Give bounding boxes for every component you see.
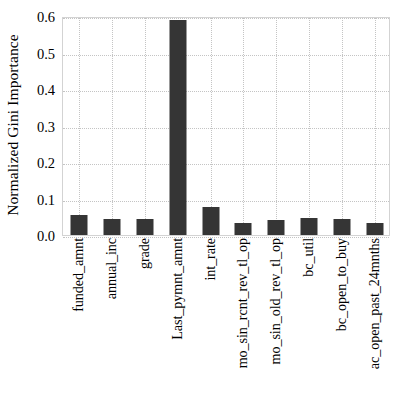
x-tick-label: Last_pymnt_amnt [168,238,185,340]
x-tick-label: mo_sin_rcnt_rev_tl_op [234,238,251,368]
x-tick-label: grade [136,238,153,269]
bar-funded_amnt [71,215,88,235]
bar-grade [137,219,154,235]
x-tick-label: ac_open_past_24mnths [365,238,382,369]
x-gridline [375,18,376,235]
x-tick-label: funded_amnt [70,238,87,312]
x-gridline [145,18,146,235]
bar-mo_sin_old_rev_tl_op [268,220,285,235]
x-gridline [309,18,310,235]
bar-bc_open_to_buy [333,219,350,235]
gini-importance-bar-chart: Normalized Gini Importance 0.00.10.20.30… [0,0,413,410]
x-tick-label: mo_sin_old_rev_tl_op [267,238,284,364]
x-tick-label: annual_inc [103,238,120,299]
x-gridline [276,18,277,235]
bar-bc_util [301,218,318,235]
x-tick-label: bc_open_to_buy [332,238,349,331]
x-gridline [342,18,343,235]
y-axis-title-container: Normalized Gini Importance [0,0,26,250]
x-axis-tick-labels: funded_amntannual_incgradeLast_pymnt_amn… [62,238,390,410]
bar-mo_sin_rcnt_rev_tl_op [235,223,252,235]
x-gridline [79,18,80,235]
x-gridline [211,18,212,235]
y-tick-label: 0.1 [37,191,55,208]
x-tick-label: int_rate [201,238,218,281]
y-axis-tick-labels: 0.00.10.20.30.40.50.6 [26,0,59,250]
bar-int_rate [202,207,219,235]
y-tick-label: 0.4 [37,82,55,99]
y-tick-label: 0.3 [37,118,55,135]
x-gridline [112,18,113,235]
bar-Last_pymnt_amnt [169,20,186,235]
x-tick-label: bc_util [300,238,317,277]
y-axis-title: Normalized Gini Importance [4,34,22,216]
plot-area [62,17,390,236]
x-gridline [243,18,244,235]
y-tick-label: 0.5 [37,45,55,62]
y-tick-label: 0.2 [37,155,55,172]
y-tick-label: 0.6 [37,9,55,26]
bar-annual_inc [104,219,121,235]
y-tick-label: 0.0 [37,228,55,245]
bar-ac_open_past_24mnths [366,223,383,235]
